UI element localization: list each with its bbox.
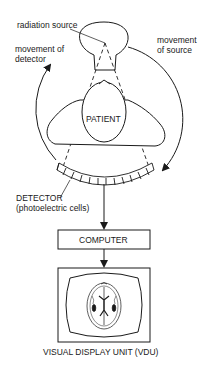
computer-label: COMPUTER [79, 235, 128, 245]
movement-of-source-label-2: of source [157, 45, 192, 55]
movement-of-detector-arc [36, 65, 56, 160]
patient-head [82, 82, 126, 142]
movement-of-detector-label-1: movement of [15, 44, 64, 54]
movement-of-detector-label-2: detector [15, 54, 46, 64]
detector-label-1: DETECTOR [16, 193, 63, 203]
radiation-source-label: radiation source [17, 20, 77, 30]
patient-label: PATIENT [86, 114, 121, 124]
detector-array [57, 163, 154, 185]
vdu-label: VISUAL DISPLAY UNIT (VDU) [43, 347, 158, 357]
movement-of-source-label-1: movement [157, 35, 197, 45]
detector-label-2: (photoelectric cells) [16, 203, 89, 213]
